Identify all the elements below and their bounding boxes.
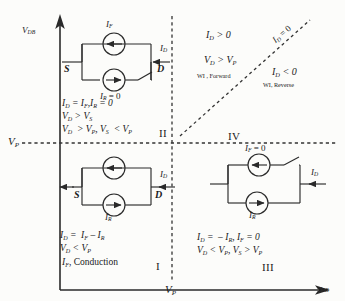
- forward-region-current: ID > 0: [206, 30, 231, 41]
- quadrant-label-two: II: [159, 128, 167, 139]
- x-threshold-label: VP: [165, 284, 176, 297]
- q3-forward-source-label: IF = 0: [245, 144, 266, 154]
- y-axis-label: VDB: [22, 26, 35, 36]
- q1-equation-3: IF, Conduction: [62, 258, 118, 268]
- x-axis-label: vSB: [318, 284, 328, 294]
- q1-drain-current-label: ID: [160, 170, 167, 180]
- q1-source-terminal: S: [74, 190, 80, 200]
- circuit-quadrant-two: [62, 33, 170, 91]
- reverse-region-caption: WI, Reverse: [263, 82, 294, 88]
- q1-equation-1: ID = IF – IR: [60, 231, 104, 241]
- q1-drain-terminal: D: [155, 190, 162, 200]
- diagram-vector-layer: [0, 0, 345, 301]
- q2-equation-1: ID = IF,IR = 0: [62, 99, 113, 109]
- quadrant-label-three: III: [262, 262, 274, 273]
- q2-source-terminal: S: [64, 64, 70, 74]
- forward-region-caption: WI , Forward: [197, 73, 231, 79]
- forward-region-voltage: VD > VP: [204, 55, 237, 66]
- quadrant-label-one: I: [156, 261, 160, 272]
- q2-drain-current-label: ID: [160, 44, 167, 54]
- q2-drain-terminal: D: [157, 64, 164, 74]
- diagram-canvas: VDB vSB VP VP IF IR = 0 S D ID ID = IF,I…: [0, 0, 345, 301]
- q3-drain-current-label: ID: [311, 168, 318, 178]
- q2-equation-2: VD > VS: [62, 112, 92, 122]
- quadrant-label-four: IV: [228, 131, 240, 142]
- q3-reverse-source-label: IR: [249, 211, 256, 221]
- circuit-quadrant-one: [60, 157, 175, 216]
- circuit-quadrant-three: [210, 154, 326, 214]
- q2-forward-source-label: IF: [106, 20, 113, 30]
- q3-equation-1: ID = – IR, IF = 0: [197, 233, 260, 243]
- q3-equation-2: VD < VP, VS > VP: [197, 246, 262, 256]
- y-threshold-label: VP: [8, 136, 19, 149]
- q2-equation-3: VD > VP, VS < VP: [62, 125, 132, 135]
- axis-x: [60, 285, 330, 295]
- q1-equation-2: VD < VP: [60, 244, 91, 254]
- reverse-region-current: ID < 0: [272, 67, 297, 78]
- q1-reverse-source-label: IR: [105, 213, 112, 223]
